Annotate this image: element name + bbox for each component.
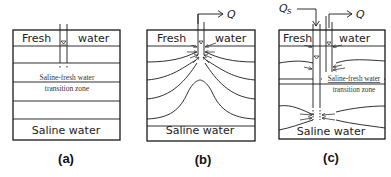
panel-c: Fresh water Saline-fresh water transitio… xyxy=(279,2,385,165)
transition-label-line1-a: Saline-fresh water xyxy=(40,73,95,82)
injection-arrow-c xyxy=(297,9,316,26)
panel-b: Fresh water Q Saline water (b) xyxy=(147,8,255,167)
water-label-b: water xyxy=(215,32,247,45)
upconing-lines-b xyxy=(147,46,255,126)
diagram-canvas: Fresh water Saline-fresh water transitio… xyxy=(0,0,391,177)
pump-arrow-c xyxy=(329,14,352,28)
water-label-a: water xyxy=(78,32,110,45)
injection-well-c xyxy=(297,9,320,120)
caption-b: (b) xyxy=(195,152,212,167)
transition-label-line2-c: transition zone xyxy=(333,86,376,94)
saline-label-a: Saline water xyxy=(32,124,101,137)
panel-a: Fresh water Saline-fresh water transitio… xyxy=(13,24,120,166)
layer-lines-a xyxy=(13,46,120,119)
transition-label-line1-c: Saline-fresh water xyxy=(328,75,381,83)
well-a xyxy=(60,24,67,69)
water-label-c: water xyxy=(339,32,371,45)
flow-q-label-c: Q xyxy=(356,8,365,21)
inflow-qs-subscript-c: S xyxy=(287,8,292,16)
caption-c: (c) xyxy=(323,150,339,165)
caption-a: (a) xyxy=(58,151,74,166)
saline-label-c: Saline water xyxy=(297,125,366,138)
fresh-label-b: Fresh xyxy=(157,32,186,45)
transition-label-line2-a: transition zone xyxy=(45,84,90,93)
fresh-label-a: Fresh xyxy=(22,32,51,45)
saline-label-b: Saline water xyxy=(166,124,235,137)
fresh-label-c: Fresh xyxy=(283,32,312,45)
flow-q-label-b: Q xyxy=(227,8,236,21)
pump-arrow-b xyxy=(198,14,223,24)
